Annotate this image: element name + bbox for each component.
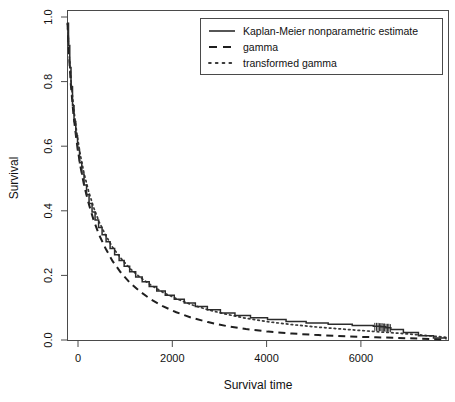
x-tick-label: 2000 (160, 352, 184, 364)
legend-label-kaplan-meier: Kaplan-Meier nonparametric estimate (243, 25, 418, 37)
chart-svg: 1.0 0.8 0.6 0.4 0.2 0.0 0 2000 4000 6000… (0, 0, 455, 402)
x-tick-label: 0 (75, 352, 81, 364)
y-tick-label: 0.6 (42, 139, 54, 154)
y-tick-label: 0.0 (42, 332, 54, 347)
x-tick-label: 6000 (349, 352, 373, 364)
y-tick-label: 0.4 (42, 203, 54, 218)
legend-label-transformed-gamma: transformed gamma (243, 57, 337, 69)
y-axis-tick-labels: 1.0 0.8 0.6 0.4 0.2 0.0 (42, 9, 54, 347)
x-axis-title: Survival time (224, 378, 293, 392)
legend-label-gamma: gamma (243, 41, 278, 53)
survival-plot-figure: 1.0 0.8 0.6 0.4 0.2 0.0 0 2000 4000 6000… (0, 0, 455, 402)
y-tick-label: 1.0 (42, 9, 54, 24)
y-axis-ticks (61, 17, 68, 340)
y-tick-label: 0.2 (42, 268, 54, 283)
y-tick-label: 0.8 (42, 74, 54, 89)
x-tick-label: 4000 (254, 352, 278, 364)
legend: Kaplan-Meier nonparametric estimate gamm… (201, 19, 443, 75)
y-axis-title: Survival (7, 157, 21, 200)
x-axis-ticks (78, 341, 361, 348)
x-axis-tick-labels: 0 2000 4000 6000 (75, 352, 373, 364)
